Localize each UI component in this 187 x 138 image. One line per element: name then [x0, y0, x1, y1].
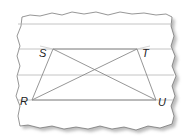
torn-paper	[16, 12, 176, 130]
vertex-label-r: R	[20, 95, 28, 107]
trapezoid-diagram: S T R U	[0, 0, 187, 138]
vertex-label-s: S	[39, 47, 47, 59]
vertex-label-u: U	[158, 96, 166, 108]
